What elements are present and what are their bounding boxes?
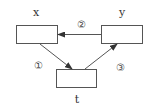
node-y-box: [102, 26, 143, 44]
node-t-label: t: [75, 93, 80, 106]
node-y-label: y: [118, 6, 126, 19]
edge-x-to-t-arrow: [40, 44, 72, 69]
edge-y-to-x-label: ②: [77, 19, 86, 30]
node-t-box: [57, 70, 97, 88]
node-x-label: x: [33, 6, 40, 19]
edge-x-to-t-label: ①: [34, 60, 43, 71]
edge-t-to-y-arrow: [85, 44, 117, 69]
node-x-box: [17, 26, 58, 44]
cycle-diagram: x y t ② ① ③: [0, 0, 151, 111]
edge-t-to-y-label: ③: [116, 62, 125, 73]
